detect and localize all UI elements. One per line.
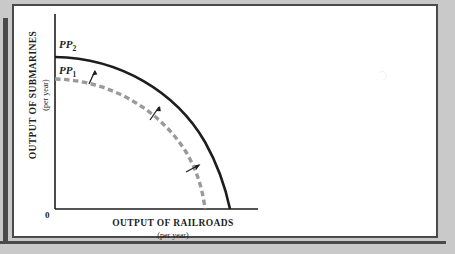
y-axis-subtitle: (per year) bbox=[41, 20, 50, 170]
y-axis-title: OUTPUT OF SUBMARINES bbox=[28, 31, 38, 159]
x-axis-title-group: OUTPUT OF RAILROADS (per year) bbox=[78, 212, 268, 240]
curve-pp2 bbox=[55, 57, 230, 209]
shift-arrow-upper bbox=[89, 70, 97, 84]
curve-label-pp1-text: PP bbox=[59, 64, 72, 76]
scan-artifact bbox=[379, 71, 387, 80]
x-axis-subtitle: (per year) bbox=[78, 231, 268, 240]
curve-label-pp1-subscript: 1 bbox=[72, 70, 76, 79]
y-axis-title-group: OUTPUT OF SUBMARINES (per year) bbox=[22, 20, 56, 170]
curve-label-pp2: PP2 bbox=[59, 38, 76, 53]
curve-label-pp2-subscript: 2 bbox=[72, 44, 76, 53]
curve-label-pp2-text: PP bbox=[59, 38, 72, 50]
x-axis-title: OUTPUT OF RAILROADS bbox=[112, 218, 234, 228]
curve-label-pp1: PP1 bbox=[59, 64, 76, 79]
figure-page: PP2 PP1 0 OUTPUT OF SUBMARINES (per year… bbox=[0, 0, 455, 254]
curve-pp1 bbox=[55, 79, 205, 209]
origin-label: 0 bbox=[45, 210, 50, 220]
